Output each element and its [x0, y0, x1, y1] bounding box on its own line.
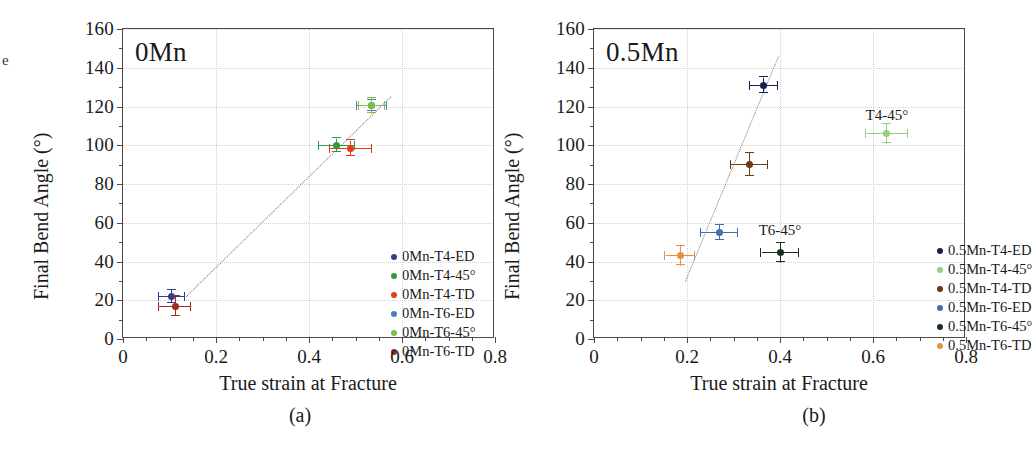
error-cap-left: [664, 251, 665, 260]
y-tick: [590, 242, 594, 243]
error-cap-left: [749, 81, 750, 90]
y-tick: [119, 203, 123, 204]
error-cap-top: [882, 123, 891, 124]
y-tick: [119, 126, 123, 127]
data-point-0mn-t4-td: [350, 148, 351, 149]
error-cap-left: [318, 141, 319, 150]
legend-swatch-icon: [391, 273, 397, 279]
x-tick: [286, 337, 287, 341]
gridline-y: [594, 68, 964, 69]
y-tick-label: 100: [85, 134, 114, 156]
data-point-0mn-t4-45-: [336, 145, 337, 146]
error-cap-bottom: [745, 175, 754, 176]
x-tick: [664, 337, 665, 341]
legend-swatch-icon: [937, 305, 943, 311]
y-tick: [588, 29, 594, 30]
y-tick-label: 0: [104, 328, 114, 350]
x-tick: [920, 337, 921, 341]
legend-item-3: 0Mn-T6-ED: [391, 304, 475, 323]
y-tick: [119, 320, 123, 321]
x-tick: [896, 337, 897, 341]
error-cap-bottom: [346, 155, 355, 156]
x-tick: [687, 337, 688, 343]
error-cap-bottom: [882, 142, 891, 143]
plot-area-b: 0.5Mn 0.5Mn-T4-ED0.5Mn-T4-45°0.5Mn-T4-TD…: [593, 28, 965, 338]
x-tick-label: 0.8: [483, 346, 507, 368]
error-cap-left: [760, 248, 761, 257]
legend-item-0: 0Mn-T4-ED: [391, 247, 475, 266]
y-tick-label: 120: [556, 96, 585, 118]
gridline-x: [873, 29, 874, 337]
x-tick: [850, 337, 851, 341]
x-tick: [356, 337, 357, 341]
x-axis-title-a: True strain at Fracture: [219, 372, 397, 395]
x-tick: [332, 337, 333, 341]
y-tick: [588, 262, 594, 263]
legend-label: 0Mn-T6-ED: [402, 305, 475, 322]
legend-a: 0Mn-T4-ED0Mn-T4-45°0Mn-T4-TD0Mn-T6-ED0Mn…: [391, 247, 475, 361]
panel-a: Final Bend Angle (°) 0Mn 0Mn-T4-ED0Mn-T4…: [0, 0, 512, 452]
x-tick-label: 0.6: [390, 346, 414, 368]
x-tick: [873, 337, 874, 343]
y-tick-label: 20: [566, 289, 585, 311]
legend-b: 0.5Mn-T4-ED0.5Mn-T4-45°0.5Mn-T4-TD0.5Mn-…: [937, 241, 1032, 355]
error-cap-right: [767, 160, 768, 169]
error-cap-bottom: [367, 112, 376, 113]
x-tick-label: 0: [589, 346, 599, 368]
trend-line: [685, 56, 779, 281]
data-marker: [172, 303, 179, 310]
y-axis-title-a: Final Bend Angle (°): [30, 133, 53, 300]
error-cap-right: [777, 81, 778, 90]
x-tick: [263, 337, 264, 341]
gridline-x: [687, 29, 688, 337]
gridline-y: [594, 184, 964, 185]
y-tick: [117, 223, 123, 224]
y-tick-label: 20: [95, 289, 114, 311]
x-tick: [449, 337, 450, 341]
y-tick-label: 140: [556, 57, 585, 79]
y-tick: [588, 145, 594, 146]
panel-caption-a: (a): [289, 404, 311, 427]
data-point-0-5mn-t6-ed: [719, 232, 720, 233]
error-cap-top: [332, 137, 341, 138]
error-cap-left: [865, 129, 866, 138]
y-tick: [119, 165, 123, 166]
x-tick-label: 0.6: [861, 346, 885, 368]
legend-label: 0.5Mn-T6-ED: [948, 299, 1031, 316]
y-tick: [590, 48, 594, 49]
data-point-0-5mn-t4-td: [749, 164, 750, 165]
error-cap-right: [184, 292, 185, 301]
error-cap-top: [346, 139, 355, 140]
y-tick: [117, 29, 123, 30]
x-tick: [641, 337, 642, 341]
legend-item-2: 0.5Mn-T4-TD: [937, 279, 1032, 298]
error-cap-bottom: [676, 264, 685, 265]
x-tick: [617, 337, 618, 341]
data-marker: [347, 145, 354, 152]
legend-label: 0Mn-T4-45°: [402, 267, 475, 284]
error-cap-top: [745, 152, 754, 153]
y-tick: [117, 184, 123, 185]
data-marker: [777, 249, 784, 256]
y-tick: [117, 68, 123, 69]
x-tick-label: 0.2: [204, 346, 228, 368]
legend-label: 0Mn-T6-45°: [402, 324, 475, 341]
point-annotation: T6-45°: [759, 222, 802, 239]
error-cap-right: [386, 101, 387, 110]
x-tick: [594, 337, 595, 343]
point-annotation: T4-45°: [866, 107, 909, 124]
error-cap-left: [158, 302, 159, 311]
legend-item-1: 0.5Mn-T4-45°: [937, 260, 1032, 279]
x-tick: [425, 337, 426, 341]
gridline-y: [594, 145, 964, 146]
y-tick: [588, 107, 594, 108]
y-tick: [119, 242, 123, 243]
data-marker: [746, 161, 753, 168]
x-tick-label: 0.8: [954, 346, 978, 368]
legend-item-4: 0.5Mn-T6-45°: [937, 317, 1032, 336]
legend-item-4: 0Mn-T6-45°: [391, 323, 475, 342]
legend-swatch-icon: [937, 267, 943, 273]
x-tick-label: 0.4: [768, 346, 792, 368]
error-cap-top: [676, 245, 685, 246]
